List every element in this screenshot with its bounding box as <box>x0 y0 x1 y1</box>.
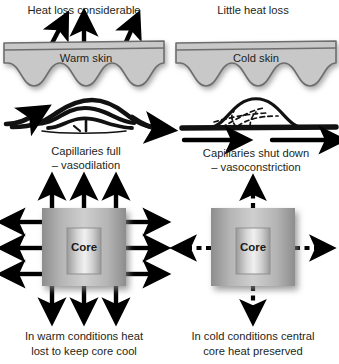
core-label-warm: Core <box>71 241 97 253</box>
thermoregulation-diagram: Heat loss considerable Warm skin Capilla… <box>0 0 339 364</box>
capillary-caption-warm-line2: – vasodilation <box>52 159 120 171</box>
heading-cold: Little heat loss <box>217 4 289 16</box>
capillary-bypass-vessel <box>182 127 336 128</box>
capillary-caption-cold-line2: – vasoconstriction <box>211 161 301 173</box>
heading-warm: Heat loss considerable <box>27 4 140 16</box>
capillary-caption-warm-line1: Capillaries full <box>51 145 121 157</box>
skin-label-warm: Warm skin <box>60 52 112 64</box>
footer-warm-line1: In warm conditions heat <box>25 330 144 342</box>
skin-label-cold: Cold skin <box>233 52 279 64</box>
footer-warm-line2: lost to keep core cool <box>31 345 137 357</box>
core-label-cold: Core <box>240 241 266 253</box>
capillary-caption-cold-line1: Capillaries shut down <box>203 147 309 159</box>
footer-cold-line1: In cold conditions central <box>191 330 314 342</box>
footer-cold-line2: core heat preserved <box>203 345 303 357</box>
